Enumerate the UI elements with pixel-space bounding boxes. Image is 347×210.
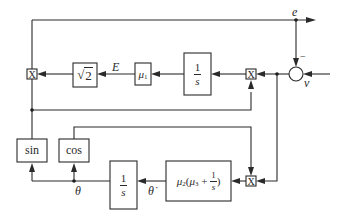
multiplier-bottom: X xyxy=(246,176,256,186)
label-E: E xyxy=(112,61,119,73)
fraction-denominator: s xyxy=(121,186,125,198)
plus-sign: + xyxy=(198,175,210,187)
pi-controller-block: μ2(μ3 + 1s) xyxy=(166,161,231,201)
arrow-to-int-top xyxy=(211,71,220,77)
fraction-1-over-s: 1 s xyxy=(194,62,202,87)
arrow-sin-to-mult xyxy=(248,80,254,89)
fraction-denominator: s xyxy=(195,75,199,87)
signal-to-mult-bottom xyxy=(262,74,277,181)
label-v: v xyxy=(304,77,309,89)
arrow-to-mult-right-top xyxy=(256,71,265,77)
arrow-e-out xyxy=(306,17,316,23)
sqrt-icon: √ xyxy=(77,67,84,83)
mu1-block: μ1 xyxy=(135,63,151,85)
arrow-to-mult-left xyxy=(37,71,46,77)
fraction-numerator: 1 xyxy=(194,62,202,75)
integrator-top: 1 s xyxy=(184,53,211,95)
arrow-to-pi xyxy=(231,178,240,184)
fraction-denominator: s xyxy=(212,182,216,192)
label-theta: θ xyxy=(75,185,81,197)
multiplier-left: X xyxy=(27,69,37,79)
arrow-to-mu1 xyxy=(151,71,160,77)
sin-block: sin xyxy=(17,139,47,162)
sqrt2-block: √2 xyxy=(73,63,97,87)
arrow-to-int-bottom xyxy=(137,178,146,184)
arrow-to-sqrt2 xyxy=(97,71,106,77)
label-theta-dot: θ̇ xyxy=(148,185,154,197)
label-minus: − xyxy=(300,52,306,62)
mu1-subscript: 1 xyxy=(144,73,148,81)
signal-sin-to-mult xyxy=(32,92,251,110)
label-e: e xyxy=(292,6,297,18)
summing-junction xyxy=(289,67,303,81)
cos-block: cos xyxy=(59,139,89,162)
arrow-to-sin xyxy=(29,163,35,172)
arrow-to-mult-bottom-right xyxy=(256,178,265,184)
multiplier-right-top: X xyxy=(246,69,256,79)
arrow-e-to-sum xyxy=(293,58,299,67)
integrator-bottom: 1 s xyxy=(110,161,137,209)
fraction-1-over-s: 1 s xyxy=(120,173,128,198)
sqrt2-value: 2 xyxy=(84,67,93,84)
close-paren: ) xyxy=(217,175,221,187)
fraction-numerator: 1 xyxy=(120,173,128,186)
arrow-to-cos xyxy=(71,163,77,172)
